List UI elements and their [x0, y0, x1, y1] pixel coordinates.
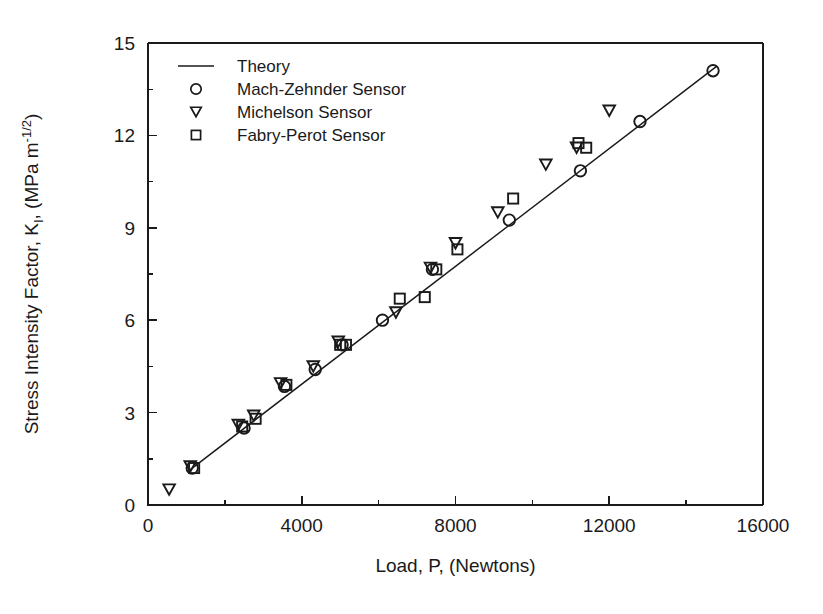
y-tick-label: 3 — [124, 403, 135, 424]
y-tick-label: 12 — [114, 125, 135, 146]
y-axis-title: Stress Intensity Factor, KI, (MPa m-1/2) — [19, 114, 46, 435]
y-tick-label: 6 — [124, 310, 135, 331]
legend-marker-square — [191, 130, 200, 139]
y-tick-label: 0 — [124, 495, 135, 516]
legend-label: Michelson Sensor — [237, 103, 372, 122]
legend-item-0[interactable]: Theory — [178, 57, 290, 76]
data-point-triangle-down — [492, 207, 504, 217]
y-tick-label: 9 — [124, 218, 135, 239]
legend-label: Mach-Zehnder Sensor — [237, 80, 406, 99]
series-triangle-down — [163, 106, 615, 495]
y-tick-label: 15 — [114, 33, 135, 54]
data-point-triangle-down — [163, 484, 175, 494]
x-axis-title: Load, P, (Newtons) — [375, 555, 535, 576]
data-point-square — [395, 294, 405, 304]
x-tick-label: 12000 — [583, 515, 636, 536]
x-tick-label: 0 — [143, 515, 154, 536]
axis-titles: Load, P, (Newtons)Stress Intensity Facto… — [19, 114, 536, 576]
data-point-square — [508, 193, 518, 203]
svg-text:Stress Intensity Factor, KI, (: Stress Intensity Factor, KI, (MPa m-1/2) — [19, 114, 46, 435]
series-square — [189, 138, 591, 473]
legend-label: Fabry-Perot Sensor — [237, 126, 386, 145]
x-tick-label: 4000 — [281, 515, 323, 536]
legend-item-3[interactable]: Fabry-Perot Sensor — [191, 126, 385, 145]
chart-figure: 040008000120001600003691215 Load, P, (Ne… — [0, 0, 823, 614]
legend-label: Theory — [237, 57, 290, 76]
tick-labels: 040008000120001600003691215 — [114, 33, 790, 536]
chart-legend: TheoryMach-Zehnder SensorMichelson Senso… — [178, 57, 406, 145]
legend-marker-circle — [191, 84, 201, 94]
x-tick-label: 8000 — [434, 515, 476, 536]
data-point-triangle-down — [540, 159, 552, 169]
data-point-triangle-down — [603, 106, 615, 116]
data-point-circle — [504, 214, 515, 225]
data-point-circle — [707, 65, 718, 76]
x-tick-label: 16000 — [737, 515, 790, 536]
legend-item-1[interactable]: Mach-Zehnder Sensor — [191, 80, 407, 99]
legend-item-2[interactable]: Michelson Sensor — [191, 103, 373, 122]
scatter-plot: 040008000120001600003691215 Load, P, (Ne… — [0, 0, 823, 614]
legend-marker-triangle-down — [191, 107, 202, 117]
